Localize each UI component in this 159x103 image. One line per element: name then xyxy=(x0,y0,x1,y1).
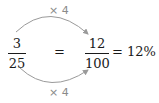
fraction-bar xyxy=(8,53,26,54)
right-denominator: 100 xyxy=(85,56,109,71)
fraction-bar xyxy=(85,53,109,54)
left-numerator: 3 xyxy=(8,36,26,51)
top-multiplier-label: × 4 xyxy=(49,4,69,17)
right-numerator: 12 xyxy=(85,36,109,51)
bottom-arrow xyxy=(20,68,88,83)
left-fraction: 3 25 xyxy=(8,36,26,71)
right-fraction: 12 100 xyxy=(85,36,109,71)
top-arrow xyxy=(16,16,88,34)
left-denominator: 25 xyxy=(8,56,26,71)
equals-sign: = xyxy=(54,44,65,59)
result-text: = 12% xyxy=(112,44,156,59)
bottom-multiplier-label: × 4 xyxy=(49,86,69,99)
